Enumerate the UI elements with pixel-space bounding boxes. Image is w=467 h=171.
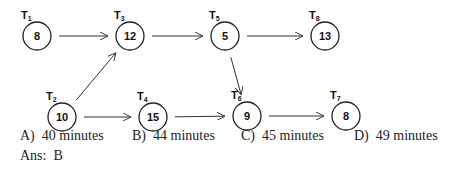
node-t6: 9T6 (231, 89, 261, 130)
task-label: T8 (309, 9, 320, 22)
node-duration: 9 (244, 110, 250, 122)
node-duration: 8 (34, 30, 40, 42)
node-t8: 13T8 (309, 9, 339, 50)
task-label: T2 (46, 90, 57, 103)
option-a: A) 40 minutes (20, 128, 104, 144)
task-label: T3 (114, 9, 125, 22)
node-t4: 15T4 (137, 90, 167, 131)
task-label: T7 (330, 89, 341, 102)
answer-label: Ans: (20, 148, 46, 163)
edge-t4-t6 (175, 116, 225, 117)
node-duration: 8 (343, 110, 349, 122)
node-duration: 10 (56, 111, 68, 123)
task-label: T5 (209, 9, 220, 22)
nodes: 8T112T35T513T810T215T49T68T7 (21, 9, 360, 131)
option-b: B) 44 minutes (132, 128, 215, 144)
edges (59, 36, 324, 117)
node-duration: 12 (124, 30, 136, 42)
edge-t2-t3 (76, 53, 116, 100)
node-t2: 10T2 (46, 90, 76, 131)
node-duration: 15 (147, 111, 159, 123)
task-label: T1 (21, 9, 32, 22)
answer-line: Ans: B (20, 148, 63, 164)
option-c: C) 45 minutes (241, 128, 324, 144)
node-t5: 5T5 (209, 9, 239, 50)
node-t3: 12T3 (114, 9, 144, 50)
node-t7: 8T7 (330, 89, 360, 130)
task-network-diagram: 8T112T35T513T810T215T49T68T7 (0, 0, 467, 171)
node-duration: 5 (222, 30, 228, 42)
node-duration: 13 (319, 30, 331, 42)
option-d: D) 49 minutes (354, 128, 438, 144)
task-label: T4 (137, 90, 148, 103)
node-t1: 8T1 (21, 9, 51, 50)
answer-value: B (53, 148, 62, 163)
